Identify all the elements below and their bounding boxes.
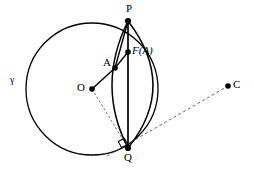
arc-left-p-q — [112, 21, 128, 148]
label-point-a: A — [103, 57, 111, 68]
point-dot-p — [125, 18, 131, 24]
label-point-o: O — [77, 82, 85, 93]
geometry-figure: P F(A) A O Q C γ — [0, 0, 254, 171]
point-dot-fa — [125, 49, 131, 55]
label-point-p: P — [126, 3, 132, 14]
point-dot-o — [89, 86, 95, 92]
label-point-q: Q — [124, 152, 132, 163]
label-point-fa: F(A) — [132, 45, 153, 56]
geometry-canvas — [0, 0, 254, 171]
point-dot-c — [225, 83, 231, 89]
label-point-c: C — [233, 79, 240, 90]
label-circle-gamma: γ — [10, 75, 14, 85]
arc-right-p-q — [128, 21, 153, 148]
point-dot-a — [112, 65, 118, 71]
